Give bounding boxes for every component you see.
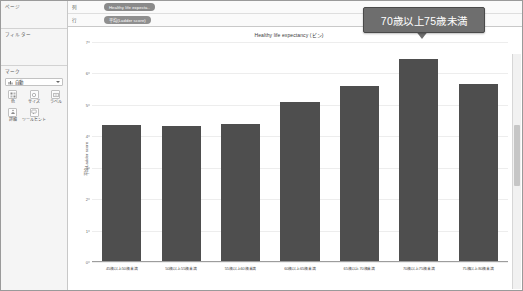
x-axis-line bbox=[92, 261, 508, 262]
tableau-worksheet-window: ページ フィルター マーク 自動 色 bbox=[0, 0, 523, 291]
bar-cell bbox=[389, 42, 448, 262]
marks-color-button[interactable]: 色 bbox=[5, 90, 20, 105]
x-axis-tick-label: 65歳以上70歳未満 bbox=[330, 264, 389, 276]
marks-card-title: マーク bbox=[5, 69, 63, 75]
columns-shelf-label: 列 bbox=[72, 4, 98, 10]
x-axis-tick-label: 75歳以上80歳未満 bbox=[449, 264, 508, 276]
y-axis-tick-mark bbox=[88, 167, 90, 168]
marks-card: マーク 自動 色 サイズ bbox=[1, 66, 67, 290]
marks-label-label: ラベル bbox=[50, 100, 62, 105]
y-axis-tick-mark bbox=[88, 42, 90, 43]
marks-tooltip-button[interactable]: ツールヒント bbox=[22, 108, 46, 123]
x-axis-tick-label: 50歳以上55歳未満 bbox=[151, 264, 210, 276]
scrollbar-thumb[interactable] bbox=[514, 125, 520, 186]
gridline bbox=[92, 262, 508, 263]
y-axis-tick-mark bbox=[88, 136, 90, 137]
bar[interactable] bbox=[340, 86, 379, 262]
y-axis-tick-mark bbox=[88, 230, 90, 231]
chart-canvas: Healthy life expectancy (ビン) 平均 Ladder s… bbox=[68, 27, 522, 290]
bar[interactable] bbox=[102, 125, 141, 262]
vertical-scrollbar[interactable] bbox=[512, 54, 521, 289]
color-icon bbox=[8, 90, 17, 99]
bar-series bbox=[92, 42, 508, 262]
chevron-down-icon bbox=[56, 81, 60, 83]
bar-mark-icon bbox=[8, 80, 13, 85]
rows-shelf-label: 行 bbox=[72, 17, 98, 23]
plot-area bbox=[92, 42, 508, 262]
rows-shelf-pill[interactable]: 平均(Ladder score) bbox=[104, 16, 151, 24]
worksheet-area: 列 Healthy life expecta.. 行 平均(Ladder sco… bbox=[68, 1, 522, 290]
mark-type-dropdown[interactable]: 自動 bbox=[5, 78, 63, 86]
marks-tooltip-label: ツールヒント bbox=[22, 118, 46, 123]
bar-cell bbox=[270, 42, 329, 262]
y-axis-ticks: 01234567 bbox=[76, 42, 90, 262]
bar-cell bbox=[92, 42, 151, 262]
columns-shelf-pill[interactable]: Healthy life expecta.. bbox=[104, 3, 155, 11]
filters-card[interactable]: フィルター bbox=[1, 29, 67, 66]
bar-cell bbox=[449, 42, 508, 262]
bar-cell bbox=[151, 42, 210, 262]
bar[interactable] bbox=[280, 102, 319, 262]
y-axis-tick-mark bbox=[88, 262, 90, 263]
filters-card-title: フィルター bbox=[5, 32, 63, 38]
y-axis-tick-mark bbox=[88, 199, 90, 200]
marks-button-grid: 色 サイズ ラベル bbox=[5, 90, 63, 122]
bar[interactable] bbox=[221, 124, 260, 262]
bar-cell bbox=[211, 42, 270, 262]
mark-type-value: 自動 bbox=[15, 79, 54, 85]
marks-detail-label: 詳細 bbox=[9, 118, 17, 123]
size-icon bbox=[30, 90, 39, 99]
annotation-callout[interactable]: 70歳以上75歳未満 bbox=[363, 7, 485, 33]
bar-cell bbox=[330, 42, 389, 262]
x-axis-labels: 45歳以上50歳未満50歳以上55歳未満55歳以上60歳未満60歳以上65歳未満… bbox=[92, 264, 508, 276]
x-axis-tick-label: 70歳以上75歳未満 bbox=[389, 264, 448, 276]
marks-size-button[interactable]: サイズ bbox=[22, 90, 46, 105]
x-axis-tick-label: 60歳以上65歳未満 bbox=[270, 264, 329, 276]
marks-size-label: サイズ bbox=[28, 100, 40, 105]
pages-card[interactable]: ページ bbox=[1, 1, 67, 29]
annotation-callout-text: 70歳以上75歳未満 bbox=[381, 13, 467, 28]
bar[interactable] bbox=[459, 84, 498, 262]
left-sidebar: ページ フィルター マーク 自動 色 bbox=[1, 1, 68, 290]
detail-icon bbox=[8, 108, 17, 117]
x-axis-tick-label: 55歳以上60歳未満 bbox=[211, 264, 270, 276]
marks-label-button[interactable]: ラベル bbox=[48, 90, 63, 105]
tooltip-icon bbox=[30, 108, 39, 117]
y-axis-tick-mark bbox=[88, 73, 90, 74]
label-icon bbox=[51, 90, 60, 99]
y-axis-tick-mark bbox=[88, 104, 90, 105]
bar[interactable] bbox=[399, 59, 438, 262]
marks-color-label: 色 bbox=[11, 100, 15, 105]
marks-detail-button[interactable]: 詳細 bbox=[5, 108, 20, 123]
x-axis-tick-label: 45歳以上50歳未満 bbox=[92, 264, 151, 276]
pages-card-title: ページ bbox=[5, 4, 63, 10]
bar[interactable] bbox=[162, 126, 201, 262]
